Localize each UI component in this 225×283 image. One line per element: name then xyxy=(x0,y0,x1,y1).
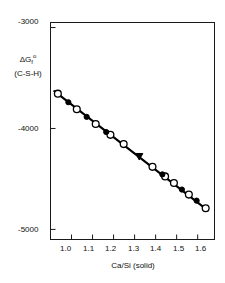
data-point-marker xyxy=(92,121,99,128)
data-point-marker xyxy=(120,141,127,148)
data-point-marker xyxy=(73,106,80,113)
data-point-marker xyxy=(84,114,89,119)
data-point-marker xyxy=(160,172,165,177)
chart-figure: ΔGfo (C-S-H) Ca/Si (solid) -3000 -4000 -… xyxy=(0,0,225,283)
axes-frame xyxy=(51,23,215,240)
plot-canvas xyxy=(0,0,225,283)
data-point-marker xyxy=(104,129,109,134)
data-point-marker xyxy=(185,191,192,198)
axis-ticks xyxy=(51,28,198,240)
data-point-marker xyxy=(179,187,184,192)
data-point-marker xyxy=(171,180,178,187)
plot-frame xyxy=(51,23,215,240)
data-point-marker xyxy=(149,163,156,170)
data-point-marker xyxy=(194,198,199,203)
data-point-marker xyxy=(202,205,209,212)
data-point-marker xyxy=(54,90,61,97)
data-point-marker xyxy=(66,100,71,105)
